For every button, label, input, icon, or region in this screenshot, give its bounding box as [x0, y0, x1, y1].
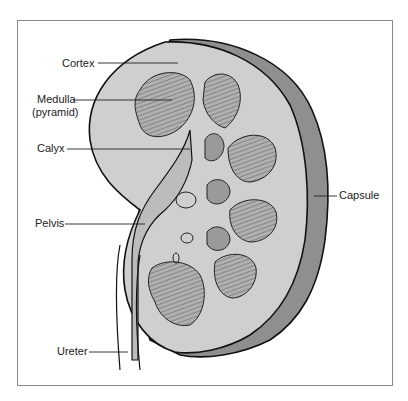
label-cortex: Cortex [62, 57, 94, 70]
label-capsule: Capsule [339, 189, 379, 202]
calyx-shape [207, 227, 230, 250]
label-ureter: Ureter [57, 345, 88, 358]
calyx-shape [207, 180, 230, 204]
label-medulla-sub: (pyramid) [32, 106, 78, 119]
label-calyx: Calyx [37, 142, 65, 155]
label-pelvis: Pelvis [35, 217, 64, 230]
label-medulla: Medulla [37, 93, 76, 106]
